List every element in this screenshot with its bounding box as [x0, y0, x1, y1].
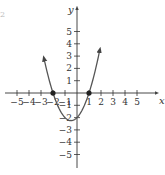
- y-tick-label: −4: [59, 137, 73, 147]
- y-tick-label: −3: [59, 125, 73, 135]
- x-tick-label: 3: [110, 97, 116, 107]
- intercept-point: [50, 90, 55, 95]
- intercept-point: [86, 90, 91, 95]
- y-tick-label: −1: [59, 100, 72, 110]
- x-axis-label: x: [159, 95, 165, 106]
- y-tick-label: 3: [66, 51, 72, 61]
- x-tick-label: 5: [134, 97, 140, 107]
- y-tick-label: −5: [59, 150, 73, 160]
- y-tick-label: 2: [66, 63, 72, 73]
- y-tick-label: 5: [66, 27, 72, 37]
- x-tick-label: 2: [98, 97, 104, 107]
- y-tick-label: 4: [66, 39, 72, 49]
- y-axis-label: y: [67, 4, 74, 15]
- parabola-graph: xy −5−4−3−2−112345−5−4−3−2−112345: [0, 0, 165, 175]
- x-tick-label: 4: [122, 97, 128, 107]
- axes: xy: [5, 4, 165, 168]
- y-tick-label: 1: [66, 76, 72, 86]
